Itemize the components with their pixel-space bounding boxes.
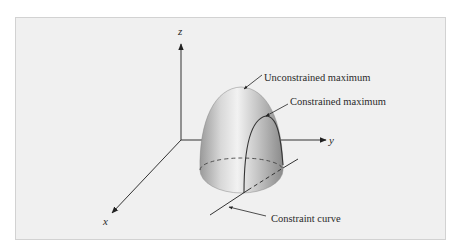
y-axis-label: y (328, 134, 334, 146)
constraint-line-back (283, 159, 298, 168)
constraint-curve-pointer (229, 207, 266, 216)
paraboloid-surface (200, 87, 283, 193)
x-axis-label: x (102, 215, 108, 227)
unconstrained-max-label: Unconstrained maximum (264, 72, 370, 83)
diagram-canvas: z y x Unconstrained maximum Constrained … (0, 0, 458, 250)
constrained-max-label: Constrained maximum (290, 96, 386, 107)
unconstrained-max-pointer (244, 75, 262, 89)
x-axis (112, 140, 181, 213)
z-axis-label: z (177, 25, 183, 37)
constraint-curve-label: Constraint curve (271, 213, 341, 224)
constraint-line-front (210, 190, 248, 215)
